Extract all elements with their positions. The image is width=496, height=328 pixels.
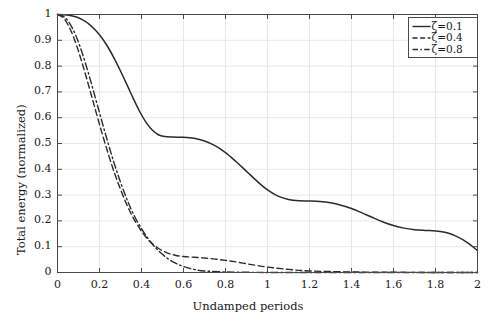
- x-tick-label: 0.6: [164, 278, 204, 291]
- x-tick-label: 1.6: [374, 278, 414, 291]
- y-tick-label: 0.2: [12, 213, 52, 226]
- y-tick-label: 0.8: [12, 59, 52, 72]
- x-tick-label: 0.8: [206, 278, 246, 291]
- x-tick-label: 1: [248, 278, 288, 291]
- legend-label-0: ζ=0.1: [432, 20, 463, 32]
- legend-label-1: ζ=0.4: [432, 31, 463, 43]
- x-tick-label: 1.2: [290, 278, 330, 291]
- y-tick-label: 0: [12, 265, 52, 278]
- x-tick-label: 1.4: [332, 278, 372, 291]
- legend-label-2: ζ=0.8: [432, 43, 463, 55]
- x-tick-label: 0: [38, 278, 78, 291]
- y-tick-label: 1: [12, 7, 52, 20]
- x-tick-label: 2: [458, 278, 496, 291]
- y-tick-label: 0.4: [12, 162, 52, 175]
- x-tick-label: 0.4: [122, 278, 162, 291]
- y-tick-label: 0.7: [12, 84, 52, 97]
- y-tick-label: 0.6: [12, 110, 52, 123]
- x-tick-label: 1.8: [416, 278, 456, 291]
- y-tick-label: 0.9: [12, 33, 52, 46]
- x-axis-label: Undamped periods: [0, 299, 496, 313]
- y-tick-label: 0.5: [12, 136, 52, 149]
- y-axis-label: Total energy (normalized): [14, 104, 28, 255]
- y-tick-label: 0.1: [12, 239, 52, 252]
- x-tick-label: 0.2: [80, 278, 120, 291]
- y-tick-label: 0.3: [12, 188, 52, 201]
